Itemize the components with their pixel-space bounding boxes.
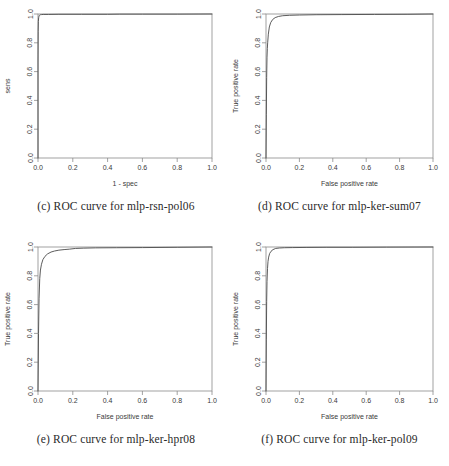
panel-caption-f: (f) ROC curve for mlp-ker-pol09 xyxy=(228,433,449,445)
x-axis-title-c: 1 - spec xyxy=(113,180,138,188)
x-tick-label-f-3: 0.6 xyxy=(361,397,371,404)
y-tick-label-e-4: 0.8 xyxy=(27,271,34,281)
y-axis-title-f: True positive rate xyxy=(232,292,240,346)
roc-panel-d: 0.00.20.40.60.81.00.00.20.40.60.81.0Fals… xyxy=(228,0,449,233)
x-tick-label-f-5: 1.0 xyxy=(428,397,438,404)
roc-svg-f: 0.00.20.40.60.81.00.00.20.40.60.81.0Fals… xyxy=(228,233,449,431)
roc-svg-e: 0.00.20.40.60.81.00.00.20.40.60.81.0Fals… xyxy=(0,233,228,431)
y-axis-title-c: sens xyxy=(4,78,11,93)
roc-curve-d-0 xyxy=(266,14,433,158)
roc-svg-c: 0.00.20.40.60.81.00.00.20.40.60.81.01 - … xyxy=(0,0,228,198)
y-tick-label-c-2: 0.4 xyxy=(27,95,34,105)
y-tick-label-e-2: 0.4 xyxy=(27,328,34,338)
roc-panel-e: 0.00.20.40.60.81.00.00.20.40.60.81.0Fals… xyxy=(0,233,228,466)
y-tick-label-e-3: 0.6 xyxy=(27,300,34,310)
roc-panel-c: 0.00.20.40.60.81.00.00.20.40.60.81.01 - … xyxy=(0,0,228,233)
roc-svg-d: 0.00.20.40.60.81.00.00.20.40.60.81.0Fals… xyxy=(228,0,449,198)
plot-box-d xyxy=(266,14,433,158)
y-tick-label-c-3: 0.6 xyxy=(27,67,34,77)
y-tick-label-f-2: 0.4 xyxy=(255,328,262,338)
y-tick-label-f-3: 0.6 xyxy=(255,300,262,310)
panel-caption-d: (d) ROC curve for mlp-ker-sum07 xyxy=(228,200,449,212)
x-tick-label-d-3: 0.6 xyxy=(361,164,371,171)
y-tick-label-c-0: 0.0 xyxy=(27,153,34,163)
roc-panel-f: 0.00.20.40.60.81.00.00.20.40.60.81.0Fals… xyxy=(228,233,449,466)
x-tick-label-d-1: 0.2 xyxy=(295,164,305,171)
x-tick-label-c-0: 0.0 xyxy=(33,164,43,171)
x-tick-label-d-2: 0.4 xyxy=(328,164,338,171)
y-axis-title-d: True positive rate xyxy=(232,59,240,113)
y-tick-label-d-2: 0.4 xyxy=(255,95,262,105)
plot-box-e xyxy=(38,247,212,391)
y-tick-label-f-0: 0.0 xyxy=(255,386,262,396)
y-tick-label-c-5: 1.0 xyxy=(27,9,34,19)
x-tick-label-f-1: 0.2 xyxy=(295,397,305,404)
y-tick-label-f-4: 0.8 xyxy=(255,271,262,281)
x-tick-label-c-5: 1.0 xyxy=(207,164,217,171)
x-tick-label-c-1: 0.2 xyxy=(68,164,78,171)
x-tick-label-e-2: 0.4 xyxy=(103,397,113,404)
plot-box-f xyxy=(266,247,433,391)
panel-caption-c: (c) ROC curve for mlp-rsn-pol06 xyxy=(0,200,228,212)
x-tick-label-c-3: 0.6 xyxy=(138,164,148,171)
y-tick-label-d-1: 0.2 xyxy=(255,124,262,134)
x-tick-label-f-0: 0.0 xyxy=(261,397,271,404)
x-tick-label-f-4: 0.8 xyxy=(395,397,405,404)
y-tick-label-c-4: 0.8 xyxy=(27,38,34,48)
roc-plot-e: 0.00.20.40.60.81.00.00.20.40.60.81.0Fals… xyxy=(0,233,228,431)
roc-plot-c: 0.00.20.40.60.81.00.00.20.40.60.81.01 - … xyxy=(0,0,228,198)
y-tick-label-f-1: 0.2 xyxy=(255,357,262,367)
y-tick-label-e-0: 0.0 xyxy=(27,386,34,396)
y-tick-label-f-5: 1.0 xyxy=(255,242,262,252)
y-tick-label-d-5: 1.0 xyxy=(255,9,262,19)
y-tick-label-d-0: 0.0 xyxy=(255,153,262,163)
x-tick-label-c-4: 0.8 xyxy=(172,164,182,171)
y-tick-label-d-3: 0.6 xyxy=(255,67,262,77)
roc-plot-d: 0.00.20.40.60.81.00.00.20.40.60.81.0Fals… xyxy=(228,0,449,198)
x-tick-label-f-2: 0.4 xyxy=(328,397,338,404)
y-axis-title-e: True positive rate xyxy=(4,292,12,346)
x-axis-title-e: False positive rate xyxy=(97,413,154,421)
x-tick-label-d-0: 0.0 xyxy=(261,164,271,171)
y-tick-label-c-1: 0.2 xyxy=(27,124,34,134)
x-axis-title-f: False positive rate xyxy=(321,413,378,421)
y-tick-label-d-4: 0.8 xyxy=(255,38,262,48)
panel-caption-e: (e) ROC curve for mlp-ker-hpr08 xyxy=(0,433,228,445)
roc-curve-e-0 xyxy=(38,247,212,391)
x-tick-label-e-3: 0.6 xyxy=(138,397,148,404)
y-tick-label-e-1: 0.2 xyxy=(27,357,34,367)
roc-plot-f: 0.00.20.40.60.81.00.00.20.40.60.81.0Fals… xyxy=(228,233,449,431)
x-tick-label-e-5: 1.0 xyxy=(207,397,217,404)
y-tick-label-e-5: 1.0 xyxy=(27,242,34,252)
x-tick-label-e-1: 0.2 xyxy=(68,397,78,404)
roc-curve-c-0 xyxy=(38,14,212,158)
x-tick-label-d-5: 1.0 xyxy=(428,164,438,171)
x-tick-label-c-2: 0.4 xyxy=(103,164,113,171)
x-tick-label-d-4: 0.8 xyxy=(395,164,405,171)
roc-figure-grid: 0.00.20.40.60.81.00.00.20.40.60.81.01 - … xyxy=(0,0,449,466)
x-tick-label-e-4: 0.8 xyxy=(172,397,182,404)
x-tick-label-e-0: 0.0 xyxy=(33,397,43,404)
x-axis-title-d: False positive rate xyxy=(321,180,378,188)
roc-curve-f-0 xyxy=(266,247,433,391)
plot-box-c xyxy=(38,14,212,158)
